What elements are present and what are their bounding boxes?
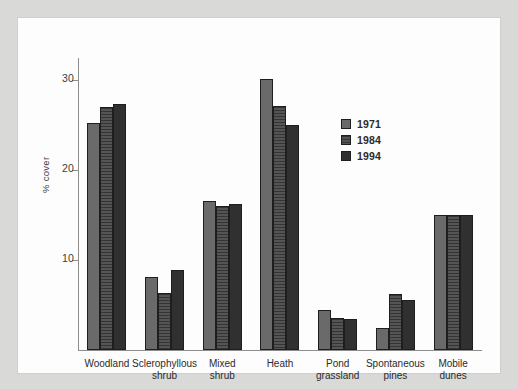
bar[interactable] (260, 79, 273, 350)
y-tick-label: 30 (62, 72, 74, 84)
x-axis-group-label-line: Heath (267, 358, 294, 370)
screenshot-root: % cover 102030 WoodlandSclerophyllousshr… (0, 0, 518, 389)
bar[interactable] (402, 300, 415, 350)
bar[interactable] (87, 123, 100, 350)
bar[interactable] (273, 106, 286, 350)
x-axis-group-label-line: shrub (209, 370, 236, 382)
x-axis-group-label-line: Woodland (84, 358, 129, 370)
x-axis-group-label-line: grassland (316, 370, 359, 382)
bar-group-bars (87, 58, 126, 350)
bar-group-bars (318, 58, 357, 350)
bar[interactable] (447, 215, 460, 350)
x-axis-group-label-line: pines (366, 370, 425, 382)
x-axis-group-label: Pondgrassland (316, 358, 359, 382)
legend-item-label: 1984 (357, 134, 381, 146)
x-axis-group-label-line: Spontaneous (366, 358, 425, 370)
bar[interactable] (318, 310, 331, 350)
bar-group: Mixedshrub (193, 58, 251, 350)
bar[interactable] (158, 293, 171, 350)
bar-group-bars (203, 58, 242, 350)
legend-swatch-icon (341, 119, 351, 129)
x-axis-group-label: Sclerophyllousshrub (132, 358, 197, 382)
legend-item[interactable]: 1971 (341, 116, 381, 132)
bar-group-bars (434, 58, 473, 350)
bar[interactable] (113, 104, 126, 350)
bar[interactable] (460, 215, 473, 350)
x-axis-group-label: Spontaneouspines (366, 358, 425, 382)
bar-group-bars (260, 58, 299, 350)
legend-item-label: 1994 (357, 150, 381, 162)
x-axis-group-label-line: Pond (316, 358, 359, 370)
bar[interactable] (344, 319, 357, 350)
legend-swatch-icon (341, 135, 351, 145)
x-axis-group-label: Mixedshrub (209, 358, 236, 382)
bar-group: Mobiledunes (424, 58, 482, 350)
plot-area: 102030 WoodlandSclerophyllousshrubMixeds… (78, 58, 482, 350)
bar-group-bars (145, 58, 184, 350)
y-tick-label: 20 (62, 162, 74, 174)
x-axis-group-label-line: Mobile (438, 358, 467, 370)
bar-group: Sclerophyllousshrub (136, 58, 194, 350)
bar[interactable] (145, 277, 158, 350)
bar[interactable] (376, 328, 389, 350)
chart-legend: 197119841994 (341, 116, 381, 164)
chart-figure: % cover 102030 WoodlandSclerophyllousshr… (18, 18, 500, 373)
bar[interactable] (331, 318, 344, 350)
x-axis-group-label-line: Mixed (209, 358, 236, 370)
bar[interactable] (216, 206, 229, 350)
x-axis-group-label: Woodland (84, 358, 129, 370)
y-tick-label: 10 (62, 252, 74, 264)
legend-item[interactable]: 1994 (341, 148, 381, 164)
x-axis-group-label-line: shrub (132, 370, 197, 382)
bar-group-bars (376, 58, 415, 350)
bar[interactable] (203, 201, 216, 350)
legend-swatch-icon (341, 151, 351, 161)
legend-item-label: 1971 (357, 118, 381, 130)
x-axis-group-label-line: Sclerophyllous (132, 358, 197, 370)
legend-item[interactable]: 1984 (341, 132, 381, 148)
bar[interactable] (100, 107, 113, 350)
bar[interactable] (286, 125, 299, 351)
x-axis-line (78, 350, 482, 351)
y-axis-title: % cover (40, 157, 51, 193)
bar[interactable] (434, 215, 447, 350)
x-axis-group-label: Heath (267, 358, 294, 370)
bar-group: Pondgrassland (309, 58, 367, 350)
bar-group: Spontaneouspines (367, 58, 425, 350)
bar-group: Heath (251, 58, 309, 350)
bar[interactable] (171, 270, 184, 350)
x-axis-group-label: Mobiledunes (438, 358, 467, 382)
bar[interactable] (389, 294, 402, 350)
x-axis-group-label-line: dunes (438, 370, 467, 382)
bar-group: Woodland (78, 58, 136, 350)
bar[interactable] (229, 204, 242, 350)
